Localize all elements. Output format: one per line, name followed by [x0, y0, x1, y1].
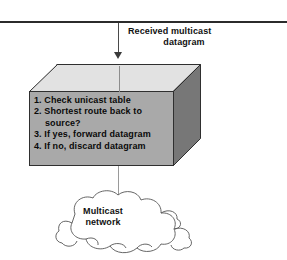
process-step-list: 1. Check unicast table 2. Shortest route…	[34, 95, 174, 152]
process-box-side-outline	[173, 64, 202, 167]
cloud-label-line2: network	[60, 217, 146, 228]
process-step-item: source?	[34, 118, 174, 129]
process-step-item: 4. If no, discard datagram	[34, 141, 174, 152]
cloud-label-line1: Multicast	[60, 206, 146, 217]
horizontal-rule-divider	[0, 21, 287, 23]
incoming-arrow-label-line1: Received multicast	[128, 26, 278, 37]
incoming-arrow-head-icon	[114, 52, 122, 59]
process-step-item: 1. Check unicast table	[34, 95, 174, 106]
process-step-item: 2. Shortest route back to	[34, 106, 174, 117]
cloud-label: Multicast network	[60, 206, 146, 228]
diagram-canvas: · ·· Received multicast datagram 1. Chec…	[0, 0, 287, 260]
process-box: 1. Check unicast table 2. Shortest route…	[29, 64, 201, 166]
incoming-arrow-label: Received multicast datagram	[128, 26, 278, 48]
arrow-shaft-over-box	[119, 66, 120, 92]
cropped-text-fragment-right: ··	[100, 0, 106, 3]
incoming-arrow-shaft	[118, 23, 119, 55]
process-step-item: 3. If yes, forward datagram	[34, 129, 174, 140]
cropped-text-remnant: · ··	[0, 0, 287, 9]
cropped-text-fragment-left: ·	[4, 0, 7, 3]
incoming-arrow-label-line2: datagram	[128, 37, 278, 48]
